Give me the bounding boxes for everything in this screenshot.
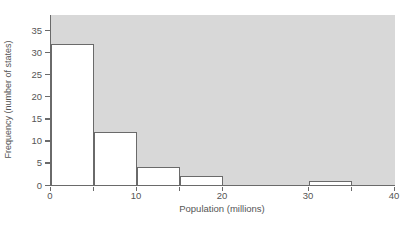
- bars-layer: [51, 15, 395, 185]
- histogram-bar: [180, 176, 223, 185]
- histogram-figure: Frequency (number of states) 05101520253…: [0, 0, 410, 229]
- x-tick-label: 10: [123, 190, 149, 201]
- x-tick-label: 0: [37, 190, 63, 201]
- y-axis-title: Frequency (number of states): [3, 20, 16, 180]
- x-tick-mark: [93, 187, 94, 191]
- x-axis-title: Population (millions): [142, 203, 302, 214]
- y-tick-label: 35: [16, 25, 42, 36]
- y-tick-mark: [45, 118, 50, 119]
- x-tick-label: 40: [381, 190, 407, 201]
- y-tick-label: 20: [16, 91, 42, 102]
- x-tick-mark: [179, 187, 180, 191]
- histogram-bar: [309, 181, 352, 185]
- x-tick-mark: [351, 187, 352, 191]
- y-tick-label: 5: [16, 157, 42, 168]
- y-tick-mark: [45, 30, 50, 31]
- y-tick-label: 0: [16, 180, 42, 191]
- y-tick-label: 30: [16, 47, 42, 58]
- x-tick-label: 30: [295, 190, 321, 201]
- plot-area: [50, 15, 395, 186]
- y-tick-mark: [45, 162, 50, 163]
- y-tick-label: 25: [16, 69, 42, 80]
- y-tick-label: 10: [16, 135, 42, 146]
- y-tick-mark: [45, 140, 50, 141]
- x-tick-label: 20: [209, 190, 235, 201]
- histogram-bar: [51, 44, 94, 185]
- y-tick-mark: [45, 74, 50, 75]
- histogram-bar: [137, 167, 180, 185]
- y-tick-mark: [45, 96, 50, 97]
- y-tick-label: 15: [16, 113, 42, 124]
- y-tick-mark: [45, 52, 50, 53]
- histogram-bar: [94, 132, 137, 185]
